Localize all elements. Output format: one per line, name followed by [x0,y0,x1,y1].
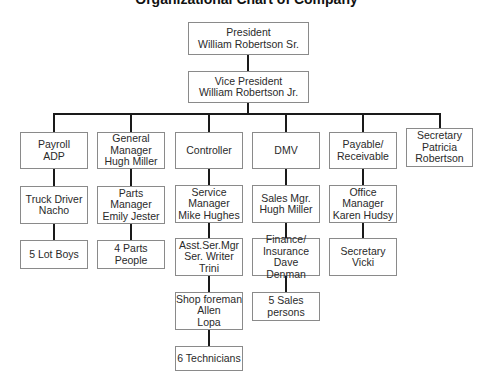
connector [439,113,441,128]
chart-title: Organizational Chart of Company [0,0,493,7]
connector [208,168,210,185]
node-parts-manager: Parts Manager Emily Jester [97,186,165,224]
node-controller: Controller [175,132,243,169]
node-president: President William Robertson Sr. [188,22,309,55]
connector [53,168,55,186]
connector-horizontal [53,113,440,115]
node-technicians: 6 Technicians [175,346,243,371]
connector [362,113,364,132]
node-office-manager: Office Manager Karen Hudsy [329,185,397,223]
node-secretary-vicki: Secretary Vicki [329,238,397,276]
connector [208,330,210,346]
node-secretary-patricia: Secretary Patricia Robertson [406,128,473,167]
node-dmv: DMV [252,132,320,169]
connector [247,54,249,72]
connector [362,168,364,185]
connector [130,224,132,240]
connector [362,223,364,238]
node-finance-insurance: Finance/ Insurance Dave Denman [252,238,320,276]
node-sales-persons: 5 Sales persons [252,292,320,321]
node-payroll: Payroll ADP [20,132,88,169]
node-sales-manager: Sales Mgr. Hugh Miller [252,185,320,223]
node-service-manager: Service Manager Mike Hughes [175,185,243,223]
connector [208,223,210,238]
connector [130,168,132,186]
node-vice-president: Vice President William Robertson Jr. [188,71,309,103]
node-payable-receivable: Payable/ Receivable [329,132,397,169]
connector [285,168,287,185]
connector [208,113,210,132]
node-asst-service-manager: Asst.Ser.Mgr Ser. Writer Trini [175,238,243,276]
connector [208,276,210,292]
connector [53,224,55,240]
connector [285,113,287,132]
node-truck-driver: Truck Driver Nacho [20,186,88,224]
node-shop-foreman: Shop foreman Allen Lopa [175,292,243,330]
node-parts-people: 4 Parts People [97,240,165,269]
connector [53,113,55,132]
connector [130,113,132,132]
node-lot-boys: 5 Lot Boys [20,240,88,269]
node-general-manager: General Manager Hugh Miller [97,132,165,169]
